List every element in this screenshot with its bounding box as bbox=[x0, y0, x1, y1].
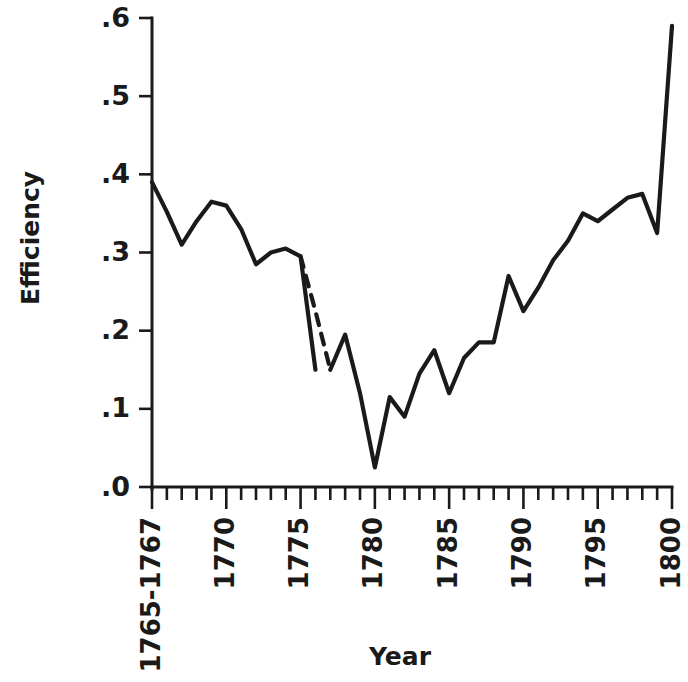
x-axis-tick-label: 1800 bbox=[656, 517, 686, 589]
x-axis-tick-label: 1765-1767 bbox=[136, 517, 166, 673]
y-axis-ticks bbox=[139, 18, 152, 487]
series-line-solid-2 bbox=[330, 26, 672, 468]
x-axis-tick-label: 1795 bbox=[581, 517, 611, 589]
x-axis-title: Year bbox=[368, 642, 432, 671]
y-axis-tick-label: .6 bbox=[101, 2, 130, 33]
y-axis-tick-label: .3 bbox=[101, 236, 130, 267]
x-axis-ticks bbox=[152, 487, 672, 509]
y-axis-title: Efficiency bbox=[16, 171, 45, 305]
y-axis-tick-label: .4 bbox=[101, 158, 130, 189]
series-line-dashed bbox=[301, 256, 331, 369]
x-axis-tick-label: 1785 bbox=[433, 517, 463, 589]
x-axis-tick-label: 1790 bbox=[507, 517, 537, 589]
chart-series-group bbox=[152, 26, 672, 468]
y-axis-tick-label: .1 bbox=[101, 392, 130, 423]
x-axis-tick-label: 1770 bbox=[210, 517, 240, 589]
y-axis-tick-label: .0 bbox=[101, 471, 130, 502]
y-axis-tick-label: .2 bbox=[101, 314, 130, 345]
chart-figure: .0.1.2.3.4.5.6 1765-17671770177517801785… bbox=[0, 0, 688, 682]
y-axis-tick-labels: .0.1.2.3.4.5.6 bbox=[101, 2, 130, 502]
y-axis-tick-label: .5 bbox=[101, 80, 130, 111]
x-axis-tick-label: 1775 bbox=[284, 517, 314, 589]
series-line-solid-0 bbox=[152, 182, 315, 370]
x-axis-tick-label: 1780 bbox=[358, 517, 388, 589]
chart-axes bbox=[152, 18, 672, 489]
efficiency-line-chart: .0.1.2.3.4.5.6 1765-17671770177517801785… bbox=[0, 0, 688, 682]
